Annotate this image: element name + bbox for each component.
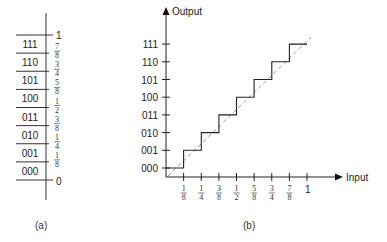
denominator: 2 <box>55 106 59 115</box>
numerator: 3 <box>217 184 221 193</box>
panel-a: 1 0 111110101100011010001000 78345812381… <box>16 13 62 231</box>
code-label: 000 <box>22 166 39 177</box>
y-tick-label: 001 <box>141 145 158 156</box>
y-tick-label: 101 <box>141 75 158 86</box>
x-tick-fraction: 38 <box>216 184 222 202</box>
quantizer-staircase <box>166 44 307 168</box>
x-tick-fraction: 18 <box>181 184 187 202</box>
threshold-fraction: 78 <box>54 42 60 60</box>
y-tick-label: 110 <box>142 57 158 68</box>
threshold-fraction: 18 <box>54 151 60 169</box>
x-tick-fraction: 14 <box>198 184 204 202</box>
threshold-fraction: 38 <box>54 115 60 133</box>
y-tick-label: 000 <box>141 163 158 174</box>
numerator: 1 <box>182 184 186 193</box>
y-axis-arrow-icon <box>163 7 170 15</box>
denominator: 4 <box>55 69 59 78</box>
panel-b-caption: (b) <box>243 220 255 231</box>
denominator: 8 <box>55 87 59 96</box>
x-tick-fraction: 34 <box>269 184 275 202</box>
code-label: 011 <box>22 112 38 123</box>
denominator: 8 <box>287 193 291 202</box>
numerator: 7 <box>287 184 291 193</box>
denominator: 4 <box>55 142 59 151</box>
panel-a-caption: (a) <box>35 220 47 231</box>
numerator: 1 <box>55 151 59 160</box>
x-tick-fraction: 58 <box>251 184 257 202</box>
denominator: 8 <box>55 124 59 133</box>
x-tick-fraction: 12 <box>234 184 240 202</box>
numerator: 3 <box>270 184 274 193</box>
y-tick-label: 011 <box>142 110 158 121</box>
denominator: 8 <box>55 160 59 169</box>
denominator: 4 <box>270 193 274 202</box>
denominator: 8 <box>55 51 59 60</box>
numerator: 1 <box>55 97 59 106</box>
y-axis-label: Output <box>172 6 202 17</box>
panel-a-bottom-label: 0 <box>56 176 62 187</box>
threshold-fraction: 34 <box>54 60 60 78</box>
x-tick-end-label: 1 <box>305 184 311 195</box>
numerator: 7 <box>55 42 59 51</box>
numerator: 1 <box>55 133 59 142</box>
code-label: 110 <box>22 57 38 68</box>
threshold-fraction: 14 <box>54 133 60 151</box>
numerator: 1 <box>235 184 239 193</box>
threshold-fraction: 58 <box>54 78 60 96</box>
numerator: 3 <box>55 60 59 69</box>
x-axis-arrow-icon <box>335 174 343 181</box>
x-axis-label: Input <box>346 172 368 183</box>
diagram-canvas: 1 0 111110101100011010001000 78345812381… <box>0 0 387 242</box>
code-label: 101 <box>22 75 39 86</box>
threshold-fraction: 12 <box>54 97 60 115</box>
denominator: 2 <box>235 193 239 202</box>
denominator: 8 <box>182 193 186 202</box>
panel-a-top-label: 1 <box>56 30 62 41</box>
denominator: 8 <box>252 193 256 202</box>
denominator: 8 <box>217 193 221 202</box>
numerator: 3 <box>55 115 59 124</box>
numerator: 5 <box>55 78 59 87</box>
panel-a-thresholds: 78345812381418 <box>54 42 60 169</box>
y-tick-label: 111 <box>143 39 159 50</box>
numerator: 1 <box>199 184 203 193</box>
x-tick-fraction: 78 <box>286 184 292 202</box>
code-label: 001 <box>22 148 39 159</box>
denominator: 4 <box>199 193 203 202</box>
panel-b: Output Input 111110101100011010001000 18… <box>141 6 368 231</box>
code-label: 010 <box>22 130 39 141</box>
code-label: 111 <box>22 39 38 50</box>
y-tick-label: 100 <box>141 92 158 103</box>
code-label: 100 <box>22 93 39 104</box>
numerator: 5 <box>252 184 256 193</box>
y-tick-label: 010 <box>141 128 158 139</box>
